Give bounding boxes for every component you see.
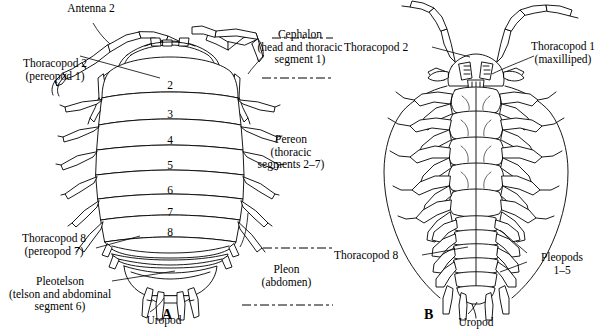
- segment-number-8: 8: [152, 226, 188, 239]
- figure-isopod-anatomy: Antenna 2 Thoracopod 2 (pereopod 1) Ceph…: [0, 0, 598, 334]
- label-cephalon: Cephalon (head and thoracic segment 1): [240, 28, 360, 66]
- label-pleon: Pleon (abdomen): [234, 263, 339, 288]
- label-pereon: Pereon (thoracic segments 2–7): [236, 133, 346, 171]
- thoracopods-right: [500, 92, 564, 242]
- label-pleotelson: Pleotelson (telson and abdominal segment…: [0, 275, 120, 313]
- segment-number-5: 5: [152, 159, 188, 172]
- pleopods-1-5: [432, 216, 520, 289]
- segment-number-3: 3: [152, 108, 188, 121]
- segment-number-2: 2: [152, 79, 188, 92]
- pleon-segments: [102, 237, 239, 269]
- label-antenna-2: Antenna 2: [46, 2, 136, 15]
- segment-number-4: 4: [152, 134, 188, 147]
- label-thoracopod-8-a: Thoracopod 8 (pereopod 7): [0, 232, 108, 257]
- label-thoracopod-2-a: Thoracopod 2 (pereopod 1): [0, 57, 110, 82]
- thoracopods-left: [388, 92, 452, 242]
- segment-number-6: 6: [152, 184, 188, 197]
- label-pleopods: Pleopods 1–5: [530, 251, 594, 276]
- label-thoracopod-2-b: Thoracopod 2: [344, 41, 436, 54]
- sternites: [448, 87, 504, 217]
- panel-letter-a: A: [162, 307, 172, 323]
- label-thoracopod-8-b: Thoracopod 8: [334, 249, 426, 262]
- segment-number-7: 7: [152, 206, 188, 219]
- label-uropod-b: Uropod: [440, 316, 512, 329]
- label-thoracopod-1-maxilliped: Thoracopod 1 (maxilliped): [528, 40, 598, 65]
- pleotelson-uropod-b: [443, 286, 509, 320]
- leader-antenna2: [93, 23, 110, 44]
- panel-letter-b: B: [424, 307, 433, 323]
